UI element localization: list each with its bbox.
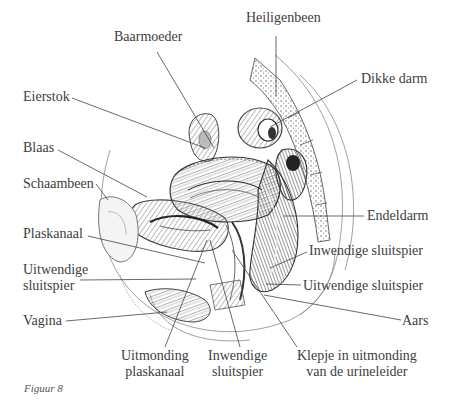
- label-endeldarm: Endeldarm: [367, 208, 428, 224]
- figure-caption: Figuur 8: [24, 382, 63, 394]
- label-uitmonding-plaskanaal: Uitmonding plaskanaal: [121, 348, 189, 380]
- label-plaskanaal: Plaskanaal: [23, 226, 83, 242]
- anatomy-illustration: [0, 0, 449, 405]
- leader-uitwendige-sluitspier-l: [80, 279, 196, 280]
- label-blaas: Blaas: [23, 140, 54, 156]
- leader-baarmoeder: [157, 52, 214, 148]
- label-schaambeen: Schaambeen: [23, 176, 94, 192]
- leader-eierstok: [72, 98, 205, 148]
- leader-vagina: [66, 312, 167, 321]
- label-inwendige-sluitspier-bottom: Inwendige sluitspier: [208, 348, 267, 380]
- ovary: [189, 114, 219, 162]
- pubic-bone: [99, 197, 139, 262]
- label-inwendige-sluitspier-right: Inwendige sluitspier: [309, 243, 423, 259]
- label-dikke-darm: Dikke darm: [361, 71, 427, 87]
- label-vagina: Vagina: [23, 313, 62, 329]
- label-uitwendige-sluitspier-right: Uitwendige sluitspier: [303, 278, 423, 294]
- leader-aars: [264, 295, 401, 320]
- label-eierstok: Eierstok: [23, 89, 70, 105]
- label-uitwendige-sluitspier-left: Uitwendige sluitspier: [23, 262, 88, 294]
- label-aars: Aars: [402, 313, 428, 329]
- label-heiligenbeen: Heiligenbeen: [246, 10, 321, 26]
- label-baarmoeder: Baarmoeder: [114, 29, 182, 45]
- label-klepje-urineleider: Klepje in uitmonding van de urineleider: [297, 348, 417, 380]
